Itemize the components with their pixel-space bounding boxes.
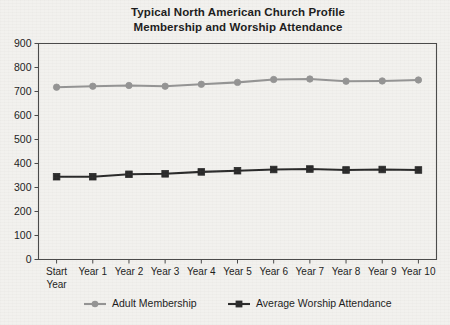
data-point-marker [379, 166, 386, 173]
series-adult-membership [53, 76, 421, 91]
data-point-marker [307, 166, 314, 173]
legend-label: Average Worship Attendance [256, 297, 392, 309]
y-axis-tick-label: 400 [14, 157, 32, 169]
y-axis-tick-label: 0 [26, 253, 32, 265]
data-point-marker [234, 167, 241, 174]
data-point-marker [343, 167, 350, 174]
data-point-marker [89, 173, 96, 180]
data-point-marker [198, 169, 205, 176]
legend-marker-circle-icon [92, 301, 99, 308]
x-axis-tick-label: Year 3 [151, 266, 180, 277]
data-point-marker [415, 167, 422, 174]
plot-frame [39, 44, 437, 260]
chart-container: Typical North American Church Profile Me… [0, 0, 450, 325]
data-point-marker [307, 76, 313, 82]
x-axis-tick-label: Year 5 [223, 266, 252, 277]
y-axis-tick-label: 300 [14, 181, 32, 193]
legend-marker-square-icon [236, 301, 243, 308]
x-axis-tick-label: Year 1 [78, 266, 107, 277]
legend-item-average-worship-attendance: Average Worship Attendance [228, 297, 392, 309]
legend-label: Adult Membership [112, 297, 197, 309]
x-axis-tick-label: Year 10 [401, 266, 436, 277]
x-axis-tick-label: Year [46, 279, 67, 290]
data-series-group [53, 76, 421, 180]
y-axis-tick-label: 500 [14, 133, 32, 145]
data-point-marker [162, 171, 169, 178]
data-point-marker [90, 83, 96, 89]
legend-item-adult-membership: Adult Membership [84, 297, 197, 309]
x-axis-tick-label: Year 2 [115, 266, 144, 277]
x-axis-tick-label: Year 9 [368, 266, 397, 277]
x-axis-tick-label: Year 8 [332, 266, 361, 277]
data-point-marker [379, 78, 385, 84]
x-axis: StartYearYear 1Year 2Year 3Year 4Year 5Y… [46, 260, 436, 290]
line-chart-plot: 0100200300400500600700800900 StartYearYe… [0, 0, 450, 325]
y-axis-tick-label: 900 [14, 37, 32, 49]
y-axis-tick-label: 100 [14, 229, 32, 241]
chart-legend: Adult MembershipAverage Worship Attendan… [84, 297, 392, 309]
data-point-marker [53, 173, 60, 180]
y-axis-tick-label: 700 [14, 85, 32, 97]
x-axis-tick-label: Start [46, 266, 67, 277]
data-point-marker [162, 83, 168, 89]
data-point-marker [198, 81, 204, 87]
y-axis-tick-label: 600 [14, 109, 32, 121]
x-axis-tick-label: Year 7 [296, 266, 325, 277]
y-axis-tick-label: 200 [14, 205, 32, 217]
data-point-marker [53, 84, 59, 90]
data-point-marker [234, 79, 240, 85]
y-axis-tick-label: 800 [14, 61, 32, 73]
y-axis: 0100200300400500600700800900 [14, 37, 39, 265]
data-point-marker [270, 76, 276, 82]
data-point-marker [126, 82, 132, 88]
series-average-worship-attendance [53, 166, 421, 180]
data-point-marker [415, 77, 421, 83]
x-axis-tick-label: Year 6 [259, 266, 288, 277]
data-point-marker [270, 166, 277, 173]
x-axis-tick-label: Year 4 [187, 266, 216, 277]
data-point-marker [126, 171, 133, 178]
data-point-marker [343, 78, 349, 84]
